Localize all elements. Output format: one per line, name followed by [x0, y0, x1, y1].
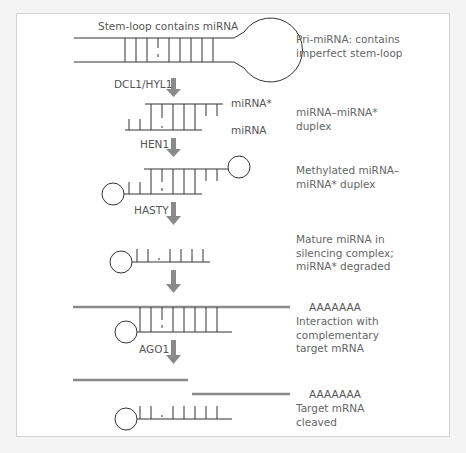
stage-description-pri-mirna: Pri-miRNA: contains imperfect stem-loop: [296, 33, 402, 60]
stem-loop-label: Stem-loop contains miRNA: [98, 20, 238, 33]
methylated-duplex: [102, 156, 250, 205]
enzyme-label-hasty: HASTY: [134, 204, 169, 217]
stage-description-duplex: miRNA–miRNA* duplex: [296, 106, 377, 133]
mirna-pathway-diagram: [0, 0, 466, 453]
stage-description-mature: Mature miRNA in silencing complex; miRNA…: [296, 233, 394, 274]
enzyme-label-ago1: AGO1: [139, 343, 169, 356]
polya-tail-label: AAAAAAA: [309, 301, 361, 314]
mirna-label: miRNA: [231, 124, 266, 137]
stage-description-cleaved: Target mRNA cleaved: [296, 402, 364, 429]
mirna-duplex: [125, 104, 223, 130]
mirna-star-label: miRNA*: [231, 97, 272, 110]
mature-mirna: [110, 249, 210, 273]
enzyme-label-dcl1: DCL1/HYL1: [114, 78, 172, 91]
stage-description-methylated: Methylated miRNA– miRNA* duplex: [296, 164, 399, 191]
arrow-target-binding: [166, 270, 181, 293]
enzyme-label-hen1: HEN1: [140, 138, 169, 151]
mirna-target-interaction: [73, 307, 290, 343]
stage-description-interaction: Interaction with complementary target mR…: [296, 315, 379, 356]
polya-tail-label-cleaved: AAAAAAA: [309, 388, 361, 401]
cleaved-target: [73, 380, 290, 430]
